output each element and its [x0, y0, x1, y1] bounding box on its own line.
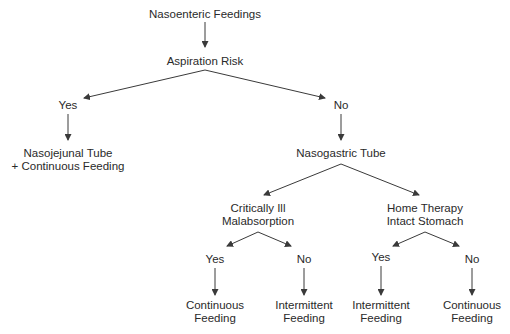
node-critically-ill-no: No: [297, 253, 312, 265]
node-nasogastric-tube: Nasogastric Tube: [296, 147, 386, 159]
node-crit-no-feeding: Feeding: [283, 312, 325, 324]
arrow-critically-ill-to-no: [258, 232, 291, 246]
node-nasojejunal-continuous: + Continuous Feeding: [12, 160, 125, 172]
node-crit-yes-feeding: Feeding: [194, 312, 236, 324]
node-aspiration-yes: Yes: [59, 99, 78, 111]
node-critically-ill: Critically Ill: [231, 202, 286, 214]
node-home-yes-intermittent: Intermittent: [352, 299, 410, 311]
node-home-no-continuous: Continuous: [443, 299, 501, 311]
node-aspiration-no: No: [334, 99, 349, 111]
arrow-home-therapy-to-no: [425, 232, 459, 246]
node-aspiration-risk: Aspiration Risk: [167, 55, 244, 67]
arrow-critically-ill-to-yes: [227, 232, 258, 246]
node-home-no-feeding: Feeding: [451, 312, 493, 324]
arrow-nasogastric-to-critically-ill: [264, 164, 341, 195]
edges: [68, 22, 472, 295]
arrow-nasogastric-to-home-therapy: [341, 164, 419, 195]
node-home-therapy: Home Therapy: [387, 202, 463, 214]
node-critically-ill-yes: Yes: [206, 253, 225, 265]
node-home-therapy-yes: Yes: [372, 251, 391, 263]
decision-tree-diagram: Nasoenteric Feedings Aspiration Risk Yes…: [0, 0, 510, 334]
node-intact-stomach: Intact Stomach: [387, 215, 464, 227]
node-home-yes-feeding: Feeding: [360, 312, 402, 324]
nodes: Nasoenteric Feedings Aspiration Risk Yes…: [12, 8, 502, 324]
node-crit-no-intermittent: Intermittent: [275, 299, 333, 311]
node-home-therapy-no: No: [465, 253, 480, 265]
node-crit-yes-continuous: Continuous: [186, 299, 244, 311]
arrow-aspiration-to-no: [205, 70, 325, 98]
arrow-home-therapy-to-yes: [393, 232, 425, 246]
arrow-aspiration-to-yes: [84, 70, 205, 98]
node-nasojejunal-tube: Nasojejunal Tube: [24, 147, 113, 159]
node-nasoenteric-feedings: Nasoenteric Feedings: [149, 8, 261, 20]
node-malabsorption: Malabsorption: [222, 215, 294, 227]
diagram-svg: Nasoenteric Feedings Aspiration Risk Yes…: [0, 0, 510, 334]
